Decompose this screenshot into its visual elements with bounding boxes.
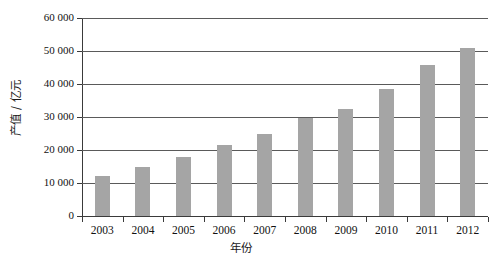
x-axis-tick-label: 2010 <box>364 224 410 237</box>
x-axis-tick-label: 2012 <box>445 224 491 237</box>
y-axis-tick-label: 60 000 <box>18 12 74 23</box>
y-axis-tick-label: 30 000 <box>18 111 74 122</box>
y-axis-tick-label: 40 000 <box>18 78 74 89</box>
x-axis-tick-label: 2007 <box>242 224 288 237</box>
y-axis-tick-label: 10 000 <box>18 177 74 188</box>
x-axis-tick-mark <box>326 217 327 222</box>
bar <box>95 176 110 216</box>
bar <box>460 48 475 216</box>
bar <box>379 89 394 216</box>
x-axis-title-label: 年份 <box>230 241 252 255</box>
gridline <box>82 51 488 52</box>
bar <box>135 167 150 216</box>
x-axis-tick-label: 2004 <box>120 224 166 237</box>
x-axis-tick-mark <box>204 217 205 222</box>
bar <box>176 157 191 216</box>
x-axis-title: 年份 <box>0 239 499 255</box>
x-axis-tick-label: 2005 <box>161 224 207 237</box>
x-axis-tick-label: 2009 <box>323 224 369 237</box>
x-axis-tick-mark <box>285 217 286 222</box>
bar <box>257 134 272 217</box>
x-axis-tick-mark <box>366 217 367 222</box>
bar <box>298 118 313 216</box>
x-axis-tick-mark <box>163 217 164 222</box>
gridline <box>82 18 488 19</box>
y-axis-tick-label: 20 000 <box>18 144 74 155</box>
x-axis-tick-mark <box>244 217 245 222</box>
x-axis-tick-label: 2008 <box>282 224 328 237</box>
x-axis-tick-mark <box>447 217 448 222</box>
bar <box>338 109 353 216</box>
x-axis-tick-label: 2011 <box>404 224 450 237</box>
x-axis-tick-mark <box>488 217 489 222</box>
x-axis-tick-mark <box>123 217 124 222</box>
y-axis-tick-labels: 010 00020 00030 00040 00050 00060 000 <box>14 0 74 263</box>
y-axis-tick-label: 50 000 <box>18 45 74 56</box>
x-axis-tick-label: 2003 <box>79 224 125 237</box>
bar-chart: 产值 / 亿元 010 00020 00030 00040 00050 0006… <box>0 0 499 263</box>
bar <box>420 65 435 216</box>
plot-area <box>82 18 488 216</box>
y-axis-tick-label: 0 <box>18 210 74 221</box>
bar <box>217 145 232 216</box>
x-axis-tick-mark <box>407 217 408 222</box>
x-axis-tick-label: 2006 <box>201 224 247 237</box>
x-axis-tick-mark <box>82 217 83 222</box>
